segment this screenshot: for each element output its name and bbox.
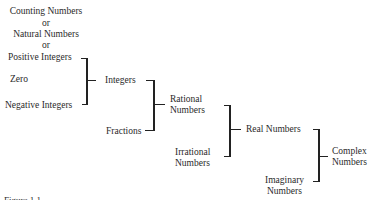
or-label: or	[5, 18, 87, 29]
node-complex: Complex	[332, 146, 367, 157]
bracket-line	[153, 80, 155, 131]
node-rational-numbers: Numbers	[170, 105, 205, 116]
node-rational: Rational	[170, 94, 202, 105]
bracket-line	[155, 104, 165, 105]
bracket-line	[320, 156, 328, 157]
node-imaginary: Imaginary	[265, 175, 304, 186]
node-fractions: Fractions	[106, 126, 141, 137]
node-natural-numbers: Natural Numbers	[5, 29, 87, 40]
bracket-line	[145, 130, 154, 131]
node-complex-numbers: Numbers	[332, 157, 367, 168]
node-counting-numbers: Counting Numbers	[5, 6, 87, 17]
figure-caption: Figure 1.1	[4, 195, 41, 200]
bracket-line	[231, 129, 241, 130]
node-integers: Integers	[105, 75, 136, 86]
node-imaginary-numbers: Numbers	[267, 186, 302, 197]
or-label: or	[5, 40, 87, 51]
bracket-line	[224, 156, 230, 157]
bracket-line	[87, 80, 96, 81]
node-real-numbers: Real Numbers	[246, 124, 301, 135]
bracket-line	[86, 58, 88, 105]
node-positive-integers: Positive Integers	[8, 52, 72, 63]
bracket-line	[229, 105, 231, 157]
node-irrational: Irrational	[175, 147, 210, 158]
bracket-line	[313, 181, 319, 182]
node-zero: Zero	[10, 74, 28, 85]
bracket-line	[82, 104, 87, 105]
node-irrational-numbers: Numbers	[175, 158, 210, 169]
node-negative-integers: Negative Integers	[5, 100, 72, 111]
